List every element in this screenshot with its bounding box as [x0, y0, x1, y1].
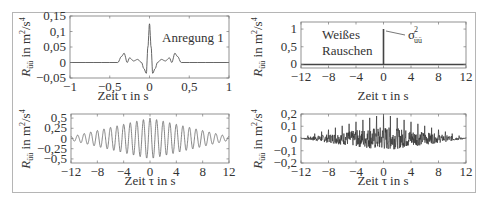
y-tick-label: 1 — [291, 21, 298, 36]
y-axis-label: Rüü in m2/s4 — [250, 17, 267, 77]
y-tick-label: −0,05 — [36, 70, 66, 85]
x-tick-label: −12 — [61, 164, 81, 179]
plot-rauschen-periodisch: −12−8−4048120,20,10−0,1−0,2 Zeit τ in s … — [250, 106, 473, 188]
line-series — [71, 118, 229, 158]
y-tick-label: −0,5 — [43, 151, 67, 166]
x-tick-label: 8 — [199, 164, 206, 179]
x-tick-label: 4 — [408, 69, 415, 84]
x-tick-label: 0 — [380, 69, 387, 84]
x-tick-label: 8 — [435, 164, 442, 179]
annotation-line1: Weißes — [322, 27, 360, 42]
x-tick-label: 12 — [223, 164, 236, 179]
x-tick-label: −8 — [322, 69, 336, 84]
figure: −1−0,500,510,150,10,050−0,05 Anregung 1 … — [0, 0, 487, 210]
plot-anregung-1: −1−0,500,510,150,10,050−0,05 Anregung 1 … — [18, 8, 232, 103]
y-tick-label: 0,05 — [43, 39, 66, 54]
y-tick-label: 0,1 — [50, 24, 66, 39]
annotation-line2: Rauschen — [322, 43, 373, 58]
y-tick-label: 0,5 — [281, 39, 297, 54]
x-tick-label: 12 — [460, 164, 473, 179]
x-tick-label: 4 — [408, 164, 415, 179]
y-tick-label: 0 — [291, 56, 298, 71]
plot-weisses-rauschen: −12−8−40481210,50 Weißes Rauschen σüü2 Z… — [250, 17, 473, 103]
x-axis-label: Zeit τ in s — [97, 88, 148, 103]
x-axis-label: Zeit τ in s — [357, 173, 408, 188]
x-tick-label: 12 — [460, 69, 473, 84]
y-axis-label: Rüü in m2/s4 — [18, 17, 35, 77]
plot-schwingung: −12−8−4048120,50,250−0,25−0,5 Zeit τ in … — [18, 109, 236, 188]
x-tick-label: −4 — [349, 69, 363, 84]
x-tick-label: 0,5 — [181, 79, 197, 94]
x-tick-label: 1 — [226, 79, 233, 94]
annotation: Anregung 1 — [162, 30, 224, 45]
x-tick-label: 8 — [435, 69, 442, 84]
y-tick-label: 0 — [60, 55, 67, 70]
x-axis-label: Zeit τ in s — [124, 173, 175, 188]
line-series — [301, 114, 466, 149]
sigma-label: σüü2 — [408, 25, 422, 45]
y-axis-label: Rüü in m2/s4 — [250, 109, 267, 169]
annotation-pointer — [386, 31, 405, 35]
x-tick-label: −8 — [90, 164, 104, 179]
y-axis-label: Rüü in m2/s4 — [18, 109, 35, 169]
x-tick-label: −8 — [322, 164, 336, 179]
y-tick-label: −0,2 — [273, 155, 297, 170]
x-axis-label: Zeit τ in s — [357, 88, 408, 103]
y-tick-label: 0,15 — [43, 8, 66, 23]
